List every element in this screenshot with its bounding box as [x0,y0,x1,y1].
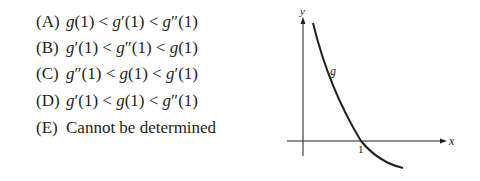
function-graph: y x g 1 [0,0,480,181]
tick-label-1: 1 [358,143,364,155]
curve-label: g [330,64,336,78]
x-axis-arrow-icon [440,139,447,144]
y-axis-label: y [299,5,305,17]
x-axis-label: x [448,134,455,148]
y-axis-arrow-icon [301,17,306,24]
